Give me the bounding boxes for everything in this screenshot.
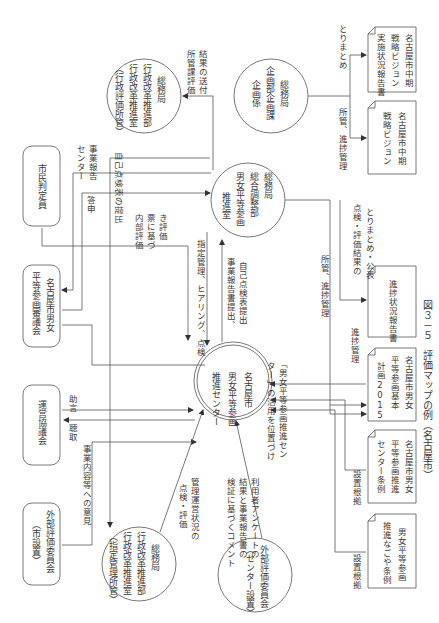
label-text: 利用者アンケートの: [249, 478, 259, 559]
label-chosyu: 聴取: [66, 424, 77, 442]
vision-report-line-3: 実施状況報告書: [375, 34, 385, 97]
unei-label: 運営協議会: [36, 400, 48, 445]
vision-report-col-1: 名古屋市中期: [402, 34, 413, 88]
progress-report-col: 進捗状況報告書: [386, 280, 397, 343]
label-naibu-0: 内部評価: [132, 214, 143, 250]
label-text: 聴取: [67, 424, 77, 442]
label-text: 点検・評価: [177, 484, 187, 529]
promo-ord-col-2: 推進なごや条例: [380, 522, 391, 585]
label-text: 自己点検表提出: [237, 262, 247, 325]
gyosei-bottom-line-4: （指定管理所管）: [108, 532, 118, 604]
basic-plan-line-3: 計画2015: [375, 362, 385, 420]
gender-line-4: 推進室: [221, 192, 231, 219]
doc-promotion-ordinance: [368, 514, 416, 588]
promo-ord-line-2: 推進なごや条例: [381, 522, 391, 585]
gyosei-top-col-4: （行政評価所管）: [113, 64, 125, 136]
gender-col-3: 男女平等参画: [234, 172, 246, 226]
label-text: 内部評価: [133, 214, 143, 250]
label-text: 設置根拠: [351, 470, 361, 506]
ext-center-line-1: 外部評価委員会: [259, 545, 269, 608]
ext-city-col-1: 外部評価委員会: [44, 510, 56, 573]
label-text: 事業報告: [87, 145, 97, 181]
label-text: センター: [75, 145, 85, 181]
kikaku-line-2: 企画部企画課: [265, 66, 275, 120]
center-ord-col-1: 名古屋市男女: [402, 440, 413, 494]
label-center-jigyo-0: センター: [74, 145, 85, 181]
center-ord-col-2: 平等参画推進: [388, 440, 399, 494]
center-ord-line-3: センター条例: [375, 440, 385, 494]
center-line-3: 推進センター: [211, 372, 221, 426]
label-jigyo-iken: 事業内容等への意見: [80, 445, 91, 526]
kikaku-col-3: 企画係: [250, 80, 262, 107]
gender-line-3: 男女平等参画: [235, 172, 245, 226]
vision-report-line-2: 戦略ビジョン: [389, 34, 399, 88]
label-text: 助言: [67, 395, 77, 413]
caption-text: 図３－５ 評価マップの例（名古屋市）: [421, 300, 432, 480]
label-text: 検証に基づくコメント: [225, 478, 235, 568]
label-katsuyo-0: 「男女平等参画推進セン: [276, 360, 287, 459]
vision-report-col-2: 戦略ビジョン: [388, 34, 399, 88]
gender-col-1: 総務局: [262, 172, 274, 199]
gyosei-bottom-col-3: 行政改革推進室: [121, 532, 133, 595]
kikaku-line-3: 企画係: [251, 80, 261, 107]
label-text: 点検・評価結果の: [351, 204, 361, 276]
label-jigyo-hokokusho-0: 事業報告書提出、: [224, 258, 235, 330]
label-text: 所管課評価: [185, 50, 195, 95]
gyosei-top-col-3: 行政改革推進室: [127, 64, 139, 127]
label-text: 指定管理、ヒアリング、点検: [195, 240, 205, 357]
label-text: 結果の送付: [197, 50, 207, 95]
label-naibu-1: 票に基づ: [144, 214, 155, 250]
gyosei-top-line-1: 総務局: [156, 76, 166, 103]
gyosei-bottom-col-2: 行政改革推進部: [135, 532, 147, 595]
kikaku-col-1: 総務局: [278, 80, 290, 107]
ext-city-line-1: 外部評価委員会: [45, 510, 55, 573]
gyosei-bottom-line-2: 行政改革推進部: [136, 532, 146, 595]
label-jogen: 助言: [66, 395, 77, 413]
center-ord-line-1: 名古屋市男女: [403, 440, 413, 494]
unei-text: 運営協議会: [37, 400, 47, 445]
label-jiko-tenken: 自己点検表の提出: [113, 152, 124, 224]
vision-line-2: 戦略ビジョン: [381, 112, 391, 166]
label-text: 所管、進捗管理: [337, 108, 347, 171]
shingikai-col-2: 平等参画審議会: [30, 272, 42, 335]
label-text: 管理運営状況の: [189, 478, 199, 541]
label-shokan-hyoka-soufu-0: 所管課評価: [184, 50, 195, 95]
gyosei-top-col-1: 総務局: [155, 76, 167, 103]
gyosei-bottom-line-3: 行政改革推進室: [122, 532, 132, 595]
label-text: ター」の活用を位置づけ: [265, 362, 275, 461]
label-text: 所管、進捗管理: [319, 255, 329, 318]
label-shincho-kanri: 進捗管理: [348, 328, 359, 364]
node-center-label-1: 名古屋市: [242, 352, 266, 408]
label-text: 自己点検表の提出: [114, 152, 124, 224]
label-shokan-shincho-mid: 所管、進捗管理: [318, 255, 329, 318]
basic-plan-col-2: 平等参画基本: [388, 356, 399, 410]
label-setchi-konkyo-2: 設置根拠: [350, 554, 361, 590]
shimin-hanteiin-text: 市民判定員: [37, 164, 47, 209]
vision-col-1: 名古屋市中期: [395, 112, 406, 166]
center-ord-line-2: 平等参画推進: [389, 440, 399, 494]
label-text: 「男女平等参画推進セン: [277, 360, 287, 459]
gender-line-1: 総務局: [263, 172, 273, 199]
ext-city-line-2: （市設置）: [31, 520, 41, 565]
basic-plan-line-2: 平等参画基本: [389, 356, 399, 410]
figure-caption: 図３－５ 評価マップの例（名古屋市）: [420, 300, 433, 480]
label-toushin: 答申: [84, 196, 95, 214]
label-setchi-konkyo-1: 設置根拠: [350, 470, 361, 506]
ext-city-col-2: （市設置）: [30, 520, 42, 565]
label-tenken-kohyo-1: とりまとめ・公表: [363, 208, 374, 280]
label-riyosha-2: 検証に基づくコメント: [224, 478, 235, 568]
label-text: き評価: [157, 214, 167, 241]
basic-plan-col-1: 名古屋市男女: [402, 356, 413, 410]
center-ord-col-3: センター条例: [374, 440, 385, 494]
kikaku-line-1: 総務局: [279, 80, 289, 107]
gyosei-bottom-col-1: 総務局: [149, 544, 161, 571]
label-torimatome: とりまとめ: [336, 25, 347, 70]
label-tenken-kohyo-0: 点検・評価結果の: [350, 204, 361, 276]
shingikai-line-1: 名古屋市男女: [45, 278, 55, 332]
label-text: 結果と事業報告書の: [237, 478, 247, 559]
ext-center-col-1: 外部評価委員会: [258, 545, 270, 608]
progress-report-line: 進捗状況報告書: [387, 280, 397, 343]
doc-vision: [368, 101, 416, 174]
label-text: 進捗管理: [349, 328, 359, 364]
gender-line-2: 総合調整部: [249, 172, 259, 217]
